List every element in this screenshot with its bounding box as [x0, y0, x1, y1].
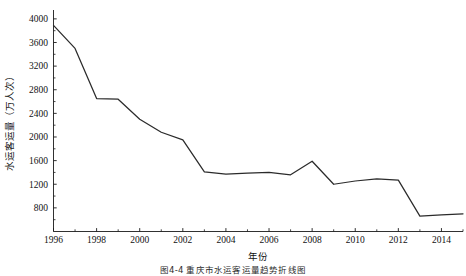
x-tick-label: 2012: [389, 235, 408, 245]
y-tick-label: 2400: [29, 109, 48, 119]
data-line: [54, 25, 464, 216]
y-tick-label: 2000: [29, 132, 48, 142]
data-series-group: [54, 25, 464, 216]
x-tick-label: 2008: [303, 235, 322, 245]
y-tick-label: 3200: [29, 61, 48, 71]
axis-titles-group: 年份水运客运量（万人次）: [4, 71, 268, 262]
y-tick-label: 4000: [29, 14, 48, 24]
axes-group: [54, 10, 464, 232]
y-tick-label: 1600: [29, 156, 48, 166]
y-tick-label: 2800: [29, 85, 48, 95]
x-tick-label: 2006: [260, 235, 279, 245]
figure-container: 1996199820002002200420062008201020122014…: [0, 0, 466, 276]
ticks-group: [54, 19, 464, 232]
x-axis-title: 年份: [248, 251, 268, 262]
line-chart: 1996199820002002200420062008201020122014…: [0, 0, 466, 276]
x-tick-label: 2000: [130, 235, 149, 245]
x-tick-label: 2010: [346, 235, 365, 245]
y-tick-label: 3600: [29, 38, 48, 48]
x-tick-label: 1998: [87, 235, 106, 245]
y-axis-title: 水运客运量（万人次）: [4, 71, 15, 171]
x-tick-label: 2014: [432, 235, 451, 245]
axis-spines: [54, 10, 464, 232]
figure-caption: 图4-4 重庆市水运客运量趋势折线图: [0, 264, 466, 276]
x-tick-label: 1996: [44, 235, 63, 245]
x-tick-labels: 1996199820002002200420062008201020122014: [44, 235, 451, 245]
x-tick-label: 2004: [216, 235, 235, 245]
y-tick-labels: 80012001600200024002800320036004000: [29, 14, 48, 213]
x-tick-label: 2002: [173, 235, 192, 245]
y-tick-label: 800: [34, 203, 49, 213]
y-tick-label: 1200: [29, 180, 48, 190]
